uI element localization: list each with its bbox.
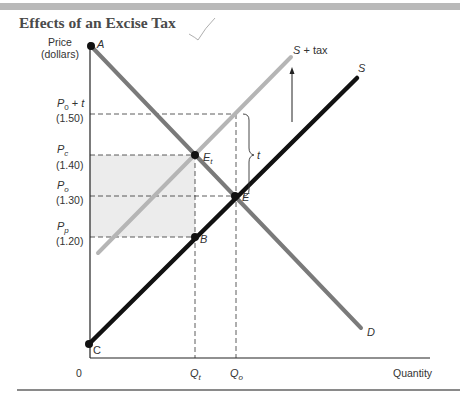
supply-label: S <box>358 62 366 74</box>
ytick-pc-value: (1.40) <box>56 159 83 171</box>
point-e <box>231 192 239 200</box>
point-et <box>191 151 199 159</box>
y-axis-title-line2: (dollars) <box>41 48 79 60</box>
supply-plus-tax-label: S + tax <box>293 44 328 56</box>
bottom-rule <box>17 389 460 391</box>
point-c-label: C <box>93 344 101 356</box>
check-mark-icon <box>189 18 215 40</box>
point-b-label: B <box>200 233 207 245</box>
xtick-qt: Qt <box>190 367 202 382</box>
ytick-pp-value: (1.20) <box>56 235 83 247</box>
point-c <box>85 340 93 348</box>
xtick-qo: Qo <box>230 367 244 382</box>
arrow-up-icon <box>290 67 295 74</box>
chart-figure: Effects of an Excise Tax t <box>0 0 460 403</box>
point-e-label: E <box>242 191 250 203</box>
ytick-po-value: (1.30) <box>56 194 83 206</box>
ytick-p0t-value: (1.50) <box>56 112 83 124</box>
point-a <box>87 42 95 50</box>
demand-label: D <box>367 326 375 338</box>
ytick-p0t-symbol: P0 + t <box>57 97 85 112</box>
x-axis-title: Quantity <box>393 367 433 379</box>
y-axis-title-line1: Price <box>48 36 72 48</box>
ytick-pp-symbol: Pp <box>57 220 69 235</box>
ytick-po-symbol: Po <box>57 179 69 194</box>
origin-label: 0 <box>76 367 82 379</box>
ytick-pc-symbol: Pc <box>57 143 68 158</box>
tax-brace-label: t <box>257 149 261 161</box>
chart-svg: t A C Et E B S + tax S D Price (dollars)… <box>0 0 460 403</box>
point-a-label: A <box>96 38 104 50</box>
point-b <box>191 233 199 241</box>
